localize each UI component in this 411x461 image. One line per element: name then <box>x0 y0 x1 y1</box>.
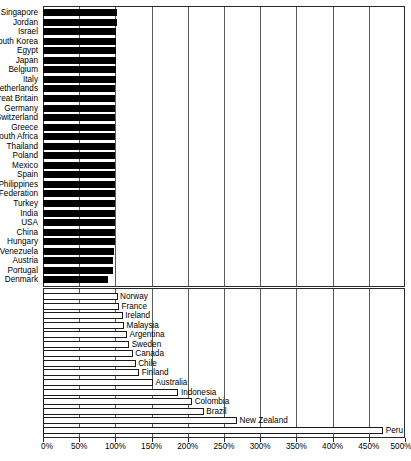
bar-row: Russian Federation <box>0 189 410 198</box>
bar-label: Argentina <box>129 330 164 339</box>
bar-row: South Korea <box>0 37 410 46</box>
bar <box>43 28 116 35</box>
bar-label: Ireland <box>125 311 150 320</box>
bar <box>43 276 108 283</box>
bar-row: Ireland <box>0 311 410 320</box>
bar-label: Peru <box>386 426 403 435</box>
bar <box>43 267 113 274</box>
bar-row: Greece <box>0 123 410 132</box>
bar-label: South Korea <box>0 37 38 46</box>
bar-row: Peru <box>0 426 410 435</box>
bar-label: Malaysia <box>127 321 159 330</box>
bar-label: Switzerland <box>0 113 38 122</box>
bar-label: Belgium <box>8 65 38 74</box>
bar <box>43 76 116 83</box>
bar-row: Austria <box>0 256 410 265</box>
bar-row: Denmark <box>0 275 410 284</box>
bar-row: Philippines <box>0 180 410 189</box>
bar-label: India <box>20 209 38 218</box>
bar-row: New Zealand <box>0 416 410 425</box>
bar-label: Portugal <box>8 266 39 275</box>
bar-label: Finland <box>142 368 169 377</box>
bar <box>43 398 192 405</box>
bar-row: Japan <box>0 56 410 65</box>
bar-row: Belgium <box>0 65 410 74</box>
bar <box>43 171 115 178</box>
bar <box>43 389 178 396</box>
bar-row: Egypt <box>0 46 410 55</box>
bar-label: New Zealand <box>240 416 288 425</box>
bar-label: Turkey <box>13 199 38 208</box>
bar-row: France <box>0 302 410 311</box>
x-tick-label: 350% <box>286 442 307 452</box>
bar-row: Mexico <box>0 161 410 170</box>
bar-row: Brazil <box>0 407 410 416</box>
bar-label: Israel <box>18 27 38 36</box>
bar-row: Singapore <box>0 8 410 17</box>
x-tick-label: 500% <box>391 442 411 452</box>
bar <box>43 210 115 217</box>
bar <box>43 133 115 140</box>
bar-row: Australia <box>0 378 410 387</box>
bar-label: Greece <box>11 123 38 132</box>
bar <box>43 162 115 169</box>
bar <box>43 417 237 424</box>
bar-label: Japan <box>16 56 38 65</box>
bar <box>43 57 116 64</box>
bar-row: Thailand <box>0 142 410 151</box>
bar-row: Norway <box>0 292 410 301</box>
bar-row: Argentina <box>0 330 410 339</box>
bar-label: Canada <box>135 349 164 358</box>
bar-row: Hungary <box>0 237 410 246</box>
x-tick-label: 400% <box>322 442 343 452</box>
bar-label: Norway <box>120 292 148 301</box>
bar-label: Denmark <box>5 275 38 284</box>
bar <box>43 9 117 16</box>
bar <box>43 19 117 26</box>
bar <box>43 379 153 386</box>
bar-label: Russian Federation <box>0 189 38 198</box>
bar-label: Poland <box>13 151 39 160</box>
bar-row: Indonesia <box>0 388 410 397</box>
bar <box>43 257 113 264</box>
bar <box>43 408 204 415</box>
bar-row: Finland <box>0 368 410 377</box>
bar <box>43 219 115 226</box>
bar-label: Mexico <box>12 161 38 170</box>
bar-label: Jordan <box>13 18 38 27</box>
bar <box>43 350 133 357</box>
bar <box>43 369 139 376</box>
bar-row: Turkey <box>0 199 410 208</box>
bar-row: Germany <box>0 104 410 113</box>
bar <box>43 427 383 434</box>
bar <box>43 312 123 319</box>
bar-row: Spain <box>0 170 410 179</box>
bar <box>43 114 115 121</box>
bar-row: Colombia <box>0 397 410 406</box>
bar <box>43 200 115 207</box>
bar-label: USA <box>21 218 38 227</box>
bar <box>43 152 115 159</box>
bar-label: South Africa <box>0 132 38 141</box>
x-tick-label: 50% <box>71 442 87 452</box>
bar-row: Switzerland <box>0 113 410 122</box>
bar-label: Philippines <box>0 180 38 189</box>
bar-row: Jordan <box>0 18 410 27</box>
bar-row: Great Britain <box>0 94 410 103</box>
bar <box>43 360 136 367</box>
bar <box>43 322 124 329</box>
x-tick-label: 0% <box>41 442 53 452</box>
bar-label: Austria <box>13 256 38 265</box>
bar-label: Egypt <box>17 46 38 55</box>
x-tick-label: 250% <box>214 442 235 452</box>
bar-label: Venezuela <box>0 247 38 256</box>
bar <box>43 95 115 102</box>
bar-row: Netherlands <box>0 84 410 93</box>
bar <box>43 143 115 150</box>
bar-row: China <box>0 228 410 237</box>
bar-row: India <box>0 209 410 218</box>
bar-label: China <box>17 228 38 237</box>
bar-label: Singapore <box>1 8 38 17</box>
bar <box>43 66 116 73</box>
